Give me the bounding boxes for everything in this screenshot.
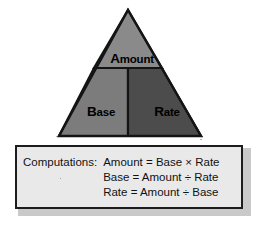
region-label-base: Base <box>68 102 134 120</box>
formula-amount: Amount = Base × Rate <box>103 155 219 170</box>
computations-label: Computations: <box>23 155 97 170</box>
region-label-amount-remainder: mount <box>120 53 154 65</box>
scan-speck <box>200 139 202 140</box>
scan-speck <box>56 136 58 137</box>
region-label-rate: Rate <box>134 102 200 120</box>
region-label-amount: Amount <box>54 49 210 67</box>
scan-speck <box>60 178 61 179</box>
computations-formula-list: Amount = Base × Rate Base = Amount ÷ Rat… <box>103 155 219 200</box>
computations-box: Computations: Amount = Base × Rate Base … <box>15 145 243 209</box>
computations-content: Computations: Amount = Base × Rate Base … <box>17 155 241 200</box>
formula-rate: Rate = Amount ÷ Base <box>103 185 219 200</box>
region-label-amount-initial: A <box>110 51 120 66</box>
percent-triangle-figure: Amount Base Rate Computations: Amount = … <box>0 0 258 226</box>
region-label-base-remainder: ase <box>96 106 115 118</box>
triangle-diagram: Amount Base Rate <box>54 6 210 140</box>
formula-base: Base = Amount ÷ Rate <box>103 170 219 185</box>
region-label-rate-initial: R <box>154 104 164 119</box>
region-label-rate-remainder: ate <box>164 106 180 118</box>
